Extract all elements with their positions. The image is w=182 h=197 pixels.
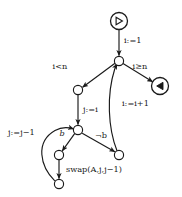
start-node[interactable] — [111, 13, 128, 30]
edge-label-swap: swap(A,j,j−1) — [66, 164, 122, 174]
edge-label-b: b — [59, 128, 64, 138]
edge-label-i-increment: i:=i+1 — [122, 98, 149, 108]
edge-decision-to-loop-init — [83, 63, 115, 87]
edge-label-not-b: ¬b — [95, 130, 107, 140]
node-decrement-state[interactable] — [54, 179, 63, 188]
edge-label-i-assign-1: i:=1 — [124, 35, 141, 45]
control-flow-diagram: i:=1 i<n i≥n j:=i b ¬b swap(A,j,j−1) j:=… — [0, 0, 182, 197]
node-outer-loop-body[interactable] — [73, 85, 82, 94]
edge-label-j-assign-i: j:=i — [82, 104, 98, 114]
end-node[interactable] — [152, 78, 169, 95]
node-inner-loop-head[interactable] — [73, 125, 82, 134]
node-inner-loop-exit[interactable] — [114, 150, 123, 159]
edge-inner-exit-back-to-decision — [109, 64, 117, 151]
cfg-canvas: i:=1 i<n i≥n j:=i b ¬b swap(A,j,j−1) j:=… — [0, 0, 182, 197]
edge-label-i-geq-n: i≥n — [133, 61, 148, 71]
node-swap-state[interactable] — [54, 150, 63, 159]
edge-label-j-decrement: j:=j−1 — [7, 127, 35, 137]
node-outer-loop-decision[interactable] — [114, 56, 123, 65]
edge-label-i-less-n: i<n — [53, 61, 68, 71]
